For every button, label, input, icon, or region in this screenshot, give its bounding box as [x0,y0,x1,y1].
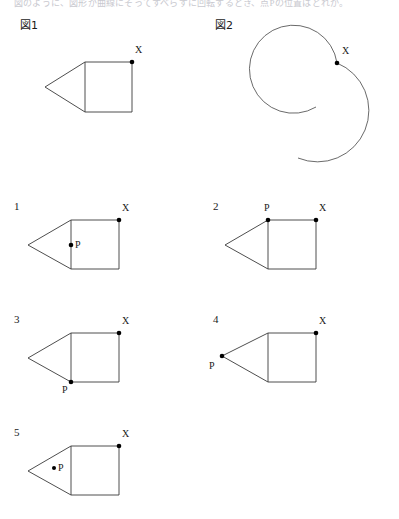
worksheet-page: 図のように、図形が曲線にそってすべらずに回転するとき、点Pの位置はどれか。 図1… [0,0,399,519]
option-5-drawing[interactable] [0,0,399,519]
triangle-outline [28,446,71,495]
point-x-dot [117,444,122,449]
option-5-point-p-label: P [58,462,64,473]
square-outline [71,446,119,495]
option-5-point-x-label: X [122,428,129,439]
point-p-dot [52,466,56,470]
